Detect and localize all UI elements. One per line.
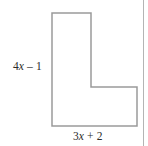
label-bottom-constant: 2 [97,130,103,142]
label-bottom-variable: x [79,130,84,142]
dimension-label-bottom: 3x + 2 [73,131,103,143]
label-bottom-operator: + [87,130,94,142]
label-left-variable: x [19,60,24,72]
label-left-operator: – [27,60,33,72]
page-margin-rule [143,0,144,146]
label-left-constant: 1 [36,60,42,72]
geometry-figure-l-shape [0,0,148,146]
dimension-label-left: 4x – 1 [13,61,42,73]
